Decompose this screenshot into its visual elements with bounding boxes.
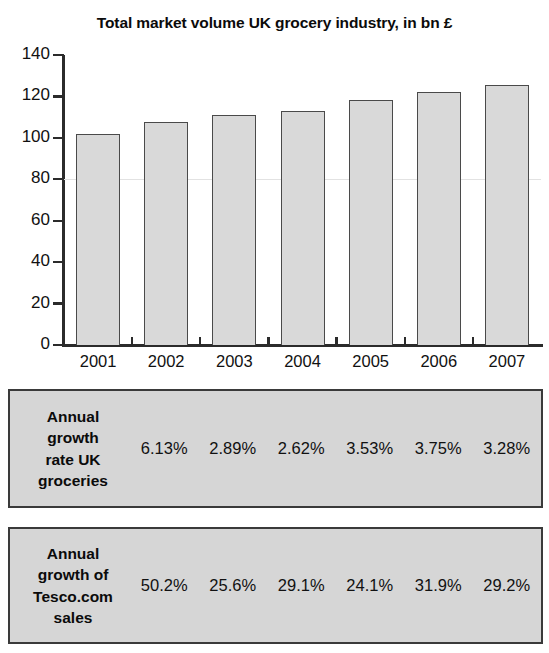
panel-value-groceries-5: 3.28% <box>473 439 542 458</box>
panel-label-line-groceries-2: rate UK <box>16 449 130 470</box>
panel-value-groceries-2: 2.62% <box>267 439 336 458</box>
y-tick-label-0: 0 <box>0 334 50 354</box>
y-tick-label-80: 80 <box>0 168 50 188</box>
y-tick-60 <box>53 220 64 222</box>
bar-2004 <box>281 111 325 345</box>
x-axis-label-2001: 2001 <box>63 352 133 371</box>
panel-value-groceries-3: 3.53% <box>336 439 405 458</box>
panel-label-line-tesco-0: Annual <box>16 543 130 564</box>
x-axis-label-2007: 2007 <box>472 352 542 371</box>
bar-2006 <box>417 92 461 345</box>
panel-annual-growth-rate-uk-groceries: Annualgrowthrate UKgroceries 6.13%2.89%2… <box>8 389 543 508</box>
bar-chart: 140120100806040200 200120022003200420052… <box>0 46 549 376</box>
panel-value-tesco-4: 31.9% <box>404 576 473 595</box>
panel-label-tesco: Annualgrowth ofTesco.comsales <box>10 543 130 629</box>
x-axis-label-2003: 2003 <box>199 352 269 371</box>
y-tick-20 <box>53 302 64 304</box>
panel-value-tesco-3: 24.1% <box>336 576 405 595</box>
x-tick-4 <box>335 337 337 346</box>
bar-2002 <box>144 122 188 345</box>
y-tick-label-20: 20 <box>0 293 50 313</box>
x-tick-6 <box>472 337 474 346</box>
panel-value-tesco-2: 29.1% <box>267 576 336 595</box>
x-axis-label-2004: 2004 <box>268 352 338 371</box>
y-tick-100 <box>53 137 64 139</box>
panel-values-tesco: 50.2%25.6%29.1%24.1%31.9%29.2% <box>130 529 541 642</box>
panel-label-line-tesco-1: growth of <box>16 564 130 585</box>
panel-label-groceries: Annualgrowthrate UKgroceries <box>10 406 130 492</box>
panel-value-tesco-0: 50.2% <box>130 576 199 595</box>
panel-value-groceries-4: 3.75% <box>404 439 473 458</box>
panel-values-groceries: 6.13%2.89%2.62%3.53%3.75%3.28% <box>130 391 541 506</box>
panel-label-line-groceries-3: groceries <box>16 470 130 491</box>
bar-2007 <box>485 85 529 345</box>
y-tick-label-40: 40 <box>0 251 50 271</box>
bar-2001 <box>76 134 120 345</box>
panel-annual-growth-of-tesco-com-sales: Annualgrowth ofTesco.comsales 50.2%25.6%… <box>8 527 543 644</box>
x-tick-3 <box>267 337 269 346</box>
bar-2003 <box>212 115 256 345</box>
panel-value-tesco-1: 25.6% <box>199 576 268 595</box>
bar-2005 <box>349 100 393 345</box>
panel-label-line-groceries-1: growth <box>16 427 130 448</box>
y-tick-label-100: 100 <box>0 127 50 147</box>
x-axis-label-2005: 2005 <box>336 352 406 371</box>
panel-label-line-tesco-2: Tesco.com <box>16 586 130 607</box>
y-tick-label-60: 60 <box>0 210 50 230</box>
page-title: Total market volume UK grocery industry,… <box>0 14 549 32</box>
x-axis-label-2006: 2006 <box>404 352 474 371</box>
x-tick-1 <box>131 337 133 346</box>
panel-label-line-tesco-3: sales <box>16 607 130 628</box>
panel-label-line-groceries-0: Annual <box>16 406 130 427</box>
y-tick-140 <box>53 54 64 56</box>
y-tick-120 <box>53 95 64 97</box>
panel-value-groceries-1: 2.89% <box>199 439 268 458</box>
y-tick-0 <box>53 344 64 346</box>
panel-value-groceries-0: 6.13% <box>130 439 199 458</box>
y-tick-80 <box>53 178 64 180</box>
x-axis-label-2002: 2002 <box>131 352 201 371</box>
x-tick-2 <box>199 337 201 346</box>
y-tick-label-140: 140 <box>0 44 50 64</box>
x-tick-5 <box>404 337 406 346</box>
panel-value-tesco-5: 29.2% <box>473 576 542 595</box>
y-tick-40 <box>53 261 64 263</box>
y-tick-label-120: 120 <box>0 85 50 105</box>
